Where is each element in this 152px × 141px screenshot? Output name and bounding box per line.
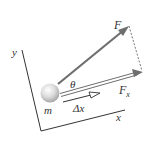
force-x-label-sub: x: [125, 90, 130, 99]
displacement-label: Δx: [72, 102, 84, 114]
projection-dashed-line: [129, 26, 142, 71]
x-axis-label: x: [115, 111, 121, 123]
work-force-diagram: F θ Fx m Δx y x: [0, 0, 152, 141]
force-x-label: Fx: [118, 83, 130, 99]
coordinate-axes: [22, 50, 125, 131]
y-axis-label: y: [11, 46, 17, 58]
angle-label: θ: [70, 78, 76, 90]
displacement-arrow: [63, 92, 100, 102]
force-label: F: [113, 18, 122, 32]
mass-ball: [41, 84, 60, 103]
force-arrow: [58, 26, 129, 84]
mass-label: m: [44, 104, 52, 116]
